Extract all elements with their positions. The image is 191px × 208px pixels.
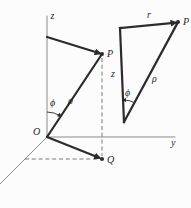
point-p-dot bbox=[176, 20, 180, 24]
y-axis-label: y bbox=[170, 137, 176, 148]
rho-label: ρ bbox=[151, 73, 157, 84]
figure-canvas: z y O P Q ϕ ρ r P z ϕ ρ bbox=[0, 0, 191, 208]
point-q-dot bbox=[100, 157, 104, 161]
o-to-q-vector bbox=[47, 137, 99, 158]
phi-angle-label: ϕ bbox=[50, 97, 55, 108]
x-axis bbox=[0, 137, 47, 184]
r-segment-vector bbox=[47, 37, 100, 53]
phi-angle-label: ϕ bbox=[125, 87, 130, 98]
origin-label: O bbox=[33, 126, 40, 137]
triangle-left-side-z bbox=[120, 28, 124, 122]
rho-label: ρ bbox=[67, 95, 73, 106]
z-side-label: z bbox=[110, 68, 115, 79]
z-axis-label: z bbox=[50, 10, 55, 21]
phi-angle-arc bbox=[47, 112, 61, 116]
r-label: r bbox=[147, 9, 151, 20]
left-3d-diagram: z y O P Q ϕ ρ bbox=[0, 10, 176, 184]
right-triangle-diagram: r P z ϕ ρ bbox=[110, 9, 189, 122]
triangle-hypotenuse-rho bbox=[124, 24, 177, 122]
point-q-label: Q bbox=[107, 154, 115, 165]
coordinate-diagram: z y O P Q ϕ ρ r P z ϕ ρ bbox=[0, 0, 191, 208]
point-p-label: P bbox=[106, 48, 113, 59]
triangle-top-side-r bbox=[120, 23, 175, 28]
point-p-label: P bbox=[182, 16, 189, 27]
point-p-dot bbox=[100, 52, 104, 56]
phi-angle-arc bbox=[123, 100, 134, 103]
